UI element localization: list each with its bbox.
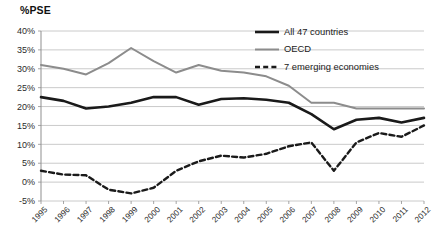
y-tick-label: 20% [17, 102, 35, 112]
x-tick-label: 2002 [188, 205, 208, 225]
x-tick-label: 1998 [98, 205, 118, 225]
x-tick-label: 1997 [75, 205, 95, 225]
chart-container: %PSE 40%35%30%25%20%15%10%5%0%-5% 199519… [0, 0, 432, 236]
x-tick-label: 1999 [120, 205, 140, 225]
series-line-0 [41, 97, 424, 129]
legend-label-1: OECD [284, 43, 311, 54]
x-tick-label: 2008 [323, 205, 343, 225]
y-axis-tick-labels: 40%35%30%25%20%15%10%5%0%-5% [17, 26, 35, 206]
x-tick-label: 2009 [346, 205, 366, 225]
y-tick-label: 30% [17, 64, 35, 74]
y-tick-label: 25% [17, 83, 35, 93]
x-axis-tick-marks [41, 201, 424, 204]
y-tick-label: 0% [22, 177, 35, 187]
y-tick-label: 40% [17, 26, 35, 36]
x-tick-label: 2004 [233, 205, 253, 225]
x-tick-label: 1995 [30, 205, 50, 225]
legend-label-2: 7 emerging economies [284, 61, 379, 72]
x-tick-label: 1996 [53, 205, 73, 225]
x-tick-label: 2010 [368, 205, 388, 225]
y-tick-label: 5% [22, 158, 35, 168]
y-tick-label: 10% [17, 140, 35, 150]
x-tick-label: 2011 [391, 205, 410, 224]
y-tick-label: -5% [19, 196, 35, 206]
y-tick-label: 35% [17, 45, 35, 55]
x-tick-label: 2001 [165, 205, 185, 225]
gridlines-group [38, 31, 424, 201]
y-tick-label: 15% [17, 121, 35, 131]
x-axis-tick-labels: 1995199619971998199920002001200220032004… [30, 205, 432, 225]
x-tick-label: 2006 [278, 205, 298, 225]
legend-label-0: All 47 countries [284, 26, 348, 37]
x-tick-label: 2000 [143, 205, 163, 225]
x-tick-label: 2003 [210, 205, 230, 225]
x-tick-label: 2005 [255, 205, 275, 225]
series-line-2 [41, 125, 424, 193]
x-tick-label: 2007 [301, 205, 321, 225]
chart-legend: All 47 countriesOECD7 emerging economies [255, 26, 379, 72]
line-chart-plot: 40%35%30%25%20%15%10%5%0%-5% 19951996199… [0, 0, 432, 236]
x-tick-label: 2012 [413, 205, 432, 225]
